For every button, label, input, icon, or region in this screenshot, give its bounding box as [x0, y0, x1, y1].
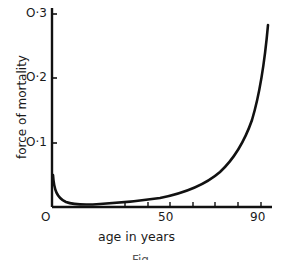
y-tick-label-0.3: O·3	[26, 6, 47, 20]
mortality-curve	[53, 25, 268, 205]
x-tick-label-50: 50	[158, 210, 173, 224]
y-tick-label-0.1: O·1	[26, 135, 47, 149]
x-tick-label-0: O	[41, 210, 50, 224]
y-axis-label: force of mortality	[15, 47, 29, 167]
y-tick-label-0.2: O·2	[26, 70, 47, 84]
x-tick-label-90: 90	[250, 210, 265, 224]
x-axis-label: age in years	[98, 229, 175, 244]
figure-caption: Fig.	[132, 253, 153, 260]
